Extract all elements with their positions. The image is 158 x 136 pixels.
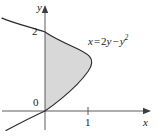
x-axis-label: x — [143, 117, 148, 128]
y-axis-arrowhead — [42, 5, 48, 13]
y-axis-label: y — [37, 2, 42, 13]
x-tick-label-1: 1 — [85, 117, 91, 128]
y-tick-label-2: 2 — [32, 26, 38, 37]
equation-minus: − — [112, 35, 120, 47]
equation-exponent: 2 — [125, 33, 129, 42]
plot-canvas — [0, 0, 158, 136]
curve-equation-label: x=2y−y2 — [88, 34, 128, 47]
shaded-region — [45, 32, 92, 111]
equation-equals: = — [93, 35, 101, 47]
x-axis-arrowhead — [143, 108, 151, 114]
equation-variable-first: y — [107, 35, 112, 47]
parabola-figure: y x 2 0 1 x=2y−y2 — [0, 0, 158, 136]
origin-label: 0 — [33, 97, 39, 108]
